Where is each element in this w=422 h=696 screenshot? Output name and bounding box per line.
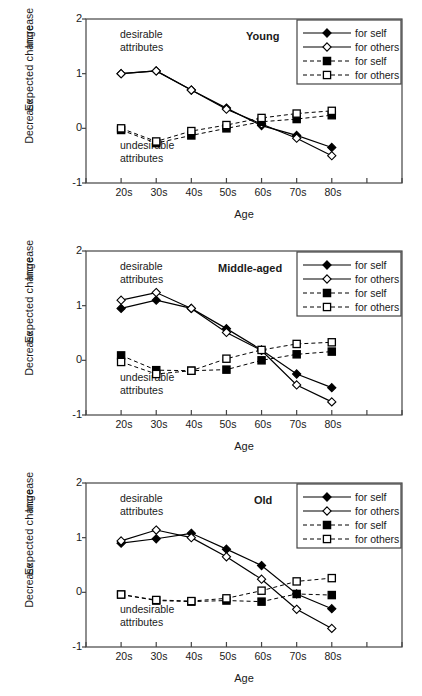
chart-panel-old: Expected change Increase Decrease 2 1 0 …: [0, 464, 422, 696]
x-tick-label: 60s: [246, 186, 280, 198]
marker-filled-square: [328, 591, 335, 598]
x-axis-title: Age: [86, 208, 402, 220]
x-tick-label: 40s: [177, 650, 211, 662]
marker-filled-square: [258, 598, 265, 605]
marker-open-square: [323, 303, 330, 310]
x-tick-label: 60s: [246, 650, 280, 662]
x-tick-label: 40s: [177, 418, 211, 430]
x-tick-label: 30s: [142, 418, 176, 430]
marker-open-square: [328, 107, 335, 114]
marker-open-square: [293, 578, 300, 585]
marker-open-diamond: [328, 398, 336, 406]
x-tick-label: 70s: [281, 418, 315, 430]
marker-filled-square: [293, 351, 300, 358]
legend-label-2: for self: [355, 55, 387, 67]
marker-open-square: [258, 114, 265, 121]
marker-filled-diamond: [293, 370, 301, 378]
legend-label-2: for self: [355, 287, 387, 299]
marker-open-square: [188, 367, 195, 374]
marker-open-square: [188, 597, 195, 604]
marker-filled-square: [293, 590, 300, 597]
x-axis-title: Age: [86, 440, 402, 452]
legend-label-1: for others: [355, 273, 399, 285]
legend-label-0: for self: [355, 259, 387, 271]
marker-open-square: [223, 355, 230, 362]
legend-label-3: for others: [355, 69, 399, 81]
marker-filled-diamond: [328, 605, 336, 613]
marker-open-diamond: [152, 288, 160, 296]
marker-open-diamond: [222, 553, 230, 561]
marker-filled-square: [258, 357, 265, 364]
marker-open-square: [188, 127, 195, 134]
legend-label-0: for self: [355, 491, 387, 503]
marker-filled-diamond: [328, 143, 336, 151]
marker-filled-diamond: [328, 384, 336, 392]
marker-open-square: [293, 340, 300, 347]
marker-open-square: [153, 138, 160, 145]
marker-open-diamond: [152, 526, 160, 534]
marker-open-square: [323, 535, 330, 542]
marker-filled-square: [323, 521, 330, 528]
x-tick-label: 80s: [316, 418, 350, 430]
marker-open-square: [328, 339, 335, 346]
marker-filled-square: [323, 57, 330, 64]
x-tick-label: 50s: [211, 650, 245, 662]
marker-open-square: [223, 121, 230, 128]
x-tick-label: 50s: [211, 418, 245, 430]
marker-open-diamond: [152, 67, 160, 75]
x-tick-label: 20s: [107, 418, 141, 430]
legend-label-1: for others: [355, 505, 399, 517]
x-tick-label: 70s: [281, 650, 315, 662]
marker-open-diamond: [187, 304, 195, 312]
legend-label-1: for others: [355, 41, 399, 53]
marker-open-square: [293, 110, 300, 117]
marker-open-square: [118, 591, 125, 598]
marker-open-square: [118, 125, 125, 132]
x-tick-label: 30s: [142, 186, 176, 198]
x-tick-label: 30s: [142, 650, 176, 662]
marker-open-square: [323, 71, 330, 78]
marker-open-square: [153, 370, 160, 377]
three-panel-line-chart-figure: Expected change Increase Decrease 2 1 0 …: [0, 0, 422, 696]
marker-open-square: [223, 595, 230, 602]
marker-open-diamond: [117, 70, 125, 78]
marker-open-square: [328, 575, 335, 582]
chart-panel-middle-aged: Expected change Increase Decrease 2 1 0 …: [0, 232, 422, 464]
marker-filled-square: [223, 366, 230, 373]
legend-label-2: for self: [355, 519, 387, 531]
marker-open-square: [258, 587, 265, 594]
x-tick-label: 80s: [316, 650, 350, 662]
legend-label-3: for others: [355, 533, 399, 545]
x-tick-label: 20s: [107, 186, 141, 198]
marker-filled-diamond: [152, 535, 160, 543]
x-tick-label: 80s: [316, 186, 350, 198]
x-tick-label: 40s: [177, 186, 211, 198]
marker-open-diamond: [117, 296, 125, 304]
marker-open-diamond: [328, 624, 336, 632]
x-tick-label: 60s: [246, 418, 280, 430]
marker-filled-diamond: [117, 304, 125, 312]
legend-label-3: for others: [355, 301, 399, 313]
x-tick-label: 70s: [281, 186, 315, 198]
marker-open-square: [118, 358, 125, 365]
x-tick-label: 50s: [211, 186, 245, 198]
chart-panel-young: Expected change Increase Decrease 2 1 0 …: [0, 0, 422, 232]
marker-open-square: [153, 596, 160, 603]
legend-label-0: for self: [355, 27, 387, 39]
marker-filled-square: [323, 289, 330, 296]
x-tick-label: 20s: [107, 650, 141, 662]
marker-open-diamond: [328, 152, 336, 160]
marker-filled-square: [328, 348, 335, 355]
marker-open-diamond: [187, 86, 195, 94]
marker-open-square: [258, 346, 265, 353]
x-axis-title: Age: [86, 672, 402, 684]
